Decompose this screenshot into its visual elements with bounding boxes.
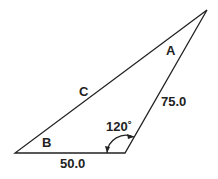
triangle-diagram: A B C 50.0 75.0 120˚: [0, 0, 218, 179]
side-label-c: C: [79, 84, 89, 99]
arrow-tail-icon: [105, 146, 110, 153]
vertex-label-b: B: [42, 135, 51, 150]
side-label-bottom: 50.0: [60, 156, 85, 171]
angle-label: 120˚: [106, 119, 132, 134]
vertex-label-a: A: [166, 43, 176, 58]
side-label-right: 75.0: [161, 94, 186, 109]
